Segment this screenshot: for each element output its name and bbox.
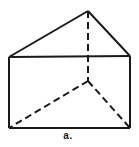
figure-label: a.	[57, 130, 79, 142]
triangular-prism-diagram	[0, 0, 139, 147]
bottom-back-left-edge	[9, 81, 88, 128]
top-face-right-edge	[88, 11, 130, 56]
bottom-back-right-edge	[88, 81, 130, 128]
prism-figure: a.	[0, 0, 139, 147]
top-face-left-edge	[9, 11, 88, 57]
top-face-front-edge	[9, 56, 130, 57]
